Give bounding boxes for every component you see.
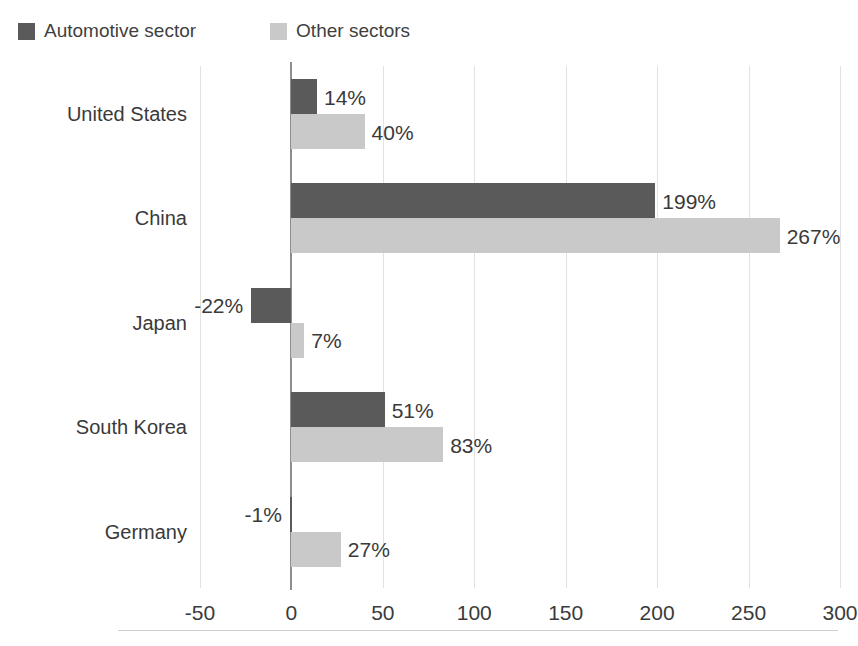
- gridline-250: [749, 66, 750, 588]
- plot-area: [200, 66, 840, 588]
- bar: [251, 288, 291, 323]
- category-label-china: China: [135, 208, 187, 228]
- bar: [291, 323, 304, 358]
- bar-value-label: -22%: [194, 295, 243, 316]
- bar-value-label: 51%: [392, 400, 434, 421]
- gridline-50: [383, 66, 384, 588]
- gridline-150: [566, 66, 567, 588]
- bar-value-label: 7%: [311, 330, 341, 351]
- gridline-100: [474, 66, 475, 588]
- bar: [291, 532, 340, 567]
- gridline-200: [657, 66, 658, 588]
- x-tick-label-0: 0: [286, 602, 298, 623]
- bar: [291, 427, 443, 462]
- footer-rule: [118, 630, 838, 631]
- gridline--50: [200, 66, 201, 588]
- bar-value-label: 40%: [372, 122, 414, 143]
- x-tick-label-300: 300: [822, 602, 857, 623]
- bar: [291, 392, 384, 427]
- x-tick-label-250: 250: [731, 602, 766, 623]
- bar: [291, 79, 317, 114]
- bar-value-label: 267%: [787, 226, 841, 247]
- bar-value-label: 83%: [450, 435, 492, 456]
- bar-value-label: 14%: [324, 87, 366, 108]
- x-tick-label-50: 50: [371, 602, 394, 623]
- gridline-300: [840, 66, 841, 588]
- bar: [291, 183, 655, 218]
- bar: [290, 497, 292, 532]
- category-label-germany: Germany: [105, 522, 187, 542]
- bar-value-label: 27%: [348, 539, 390, 560]
- x-tick-label-150: 150: [548, 602, 583, 623]
- bar: [291, 114, 364, 149]
- x-tick-label-100: 100: [457, 602, 492, 623]
- bar-value-label: 199%: [662, 191, 716, 212]
- category-label-south-korea: South Korea: [76, 417, 187, 437]
- bar-value-label: -1%: [245, 504, 282, 525]
- x-tick-label-200: 200: [640, 602, 675, 623]
- x-tick-label--50: -50: [185, 602, 215, 623]
- category-label-united-states: United States: [67, 104, 187, 124]
- bar: [291, 218, 779, 253]
- category-label-japan: Japan: [133, 313, 188, 333]
